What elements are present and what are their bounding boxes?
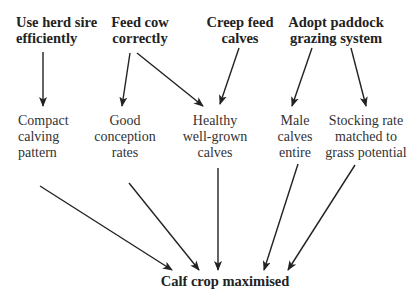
node-healthy-calves: Healthy well-grown calves — [175, 113, 255, 161]
node-compact-calving-pattern: Compact calving pattern — [18, 113, 78, 161]
edge-good-conception-to-calf-crop — [129, 183, 199, 270]
node-line: conception — [92, 129, 158, 145]
node-line: correctly — [105, 30, 175, 46]
node-male-calves-entire: Male calves entire — [271, 113, 319, 161]
edge-male-calves-to-calf-crop — [264, 164, 298, 270]
edge-feed-cow-to-good-conception — [122, 53, 130, 106]
node-use-herd-sire: Use herd sire efficiently — [16, 14, 101, 46]
node-line: rates — [92, 145, 158, 161]
node-line: Use herd sire — [16, 14, 101, 30]
diagram-canvas: Use herd sire efficiently Feed cow corre… — [0, 0, 415, 302]
edge-paddock-to-stocking-rate — [351, 48, 366, 106]
node-feed-cow: Feed cow correctly — [105, 14, 175, 46]
node-line: Feed cow — [105, 14, 175, 30]
edge-paddock-to-male-calves — [292, 48, 312, 106]
edge-compact-calving-to-calf-crop — [40, 186, 172, 270]
node-line: calving — [18, 129, 78, 145]
node-adopt-paddock-grazing: Adopt paddock grazing system — [282, 14, 390, 46]
node-line: efficiently — [16, 30, 101, 46]
node-line: matched to — [318, 129, 414, 145]
node-good-conception-rates: Good conception rates — [92, 113, 158, 161]
node-line: Male — [271, 113, 319, 129]
node-calf-crop-maximised: Calf crop maximised — [150, 273, 300, 289]
node-line: Healthy — [175, 113, 255, 129]
node-line: Compact — [18, 113, 78, 129]
node-line: grass potential — [318, 145, 414, 161]
node-line: Stocking rate — [318, 113, 414, 129]
node-stocking-rate: Stocking rate matched to grass potential — [318, 113, 414, 161]
node-line: calves — [200, 30, 280, 46]
edge-feed-cow-to-healthy-calves — [137, 53, 203, 106]
node-line: calves — [271, 129, 319, 145]
node-line: grazing system — [282, 30, 390, 46]
node-line: entire — [271, 145, 319, 161]
node-line: calves — [175, 145, 255, 161]
edge-creep-feed-to-healthy-calves — [220, 48, 239, 104]
node-creep-feed: Creep feed calves — [200, 14, 280, 46]
edge-stocking-rate-to-calf-crop — [288, 165, 355, 270]
node-line: Adopt paddock — [282, 14, 390, 30]
node-line: Calf crop maximised — [150, 273, 300, 289]
node-line: pattern — [18, 145, 78, 161]
node-line: well-grown — [175, 129, 255, 145]
node-line: Good — [92, 113, 158, 129]
node-line: Creep feed — [200, 14, 280, 30]
